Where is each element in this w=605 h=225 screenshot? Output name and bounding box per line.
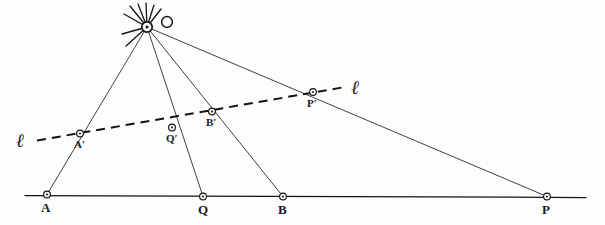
ray-OA <box>47 27 147 195</box>
point-Q-label: Q <box>198 203 208 216</box>
point-markers-group <box>44 17 551 200</box>
geometry-figure: AQBPA′Q′B′P′ℓℓ O <box>0 0 605 225</box>
point-A-dot <box>46 194 48 196</box>
ell-left-label: ℓ <box>16 131 24 150</box>
base-line-group <box>25 196 586 198</box>
point-B-label: B <box>278 203 287 216</box>
point-B-dot <box>282 196 284 198</box>
base-line <box>25 196 586 198</box>
point-A-label: A <box>41 201 50 214</box>
projection-rays-group <box>47 27 547 197</box>
point-Q-prime-dot <box>171 127 173 129</box>
ell-right-label: ℓ <box>351 78 359 97</box>
point-P-label: P <box>542 203 550 216</box>
point-B-prime-dot <box>211 111 213 113</box>
point-A-prime-label: A′ <box>74 139 85 150</box>
center-point-dot <box>146 26 149 29</box>
point-Q-dot <box>202 196 204 198</box>
point-A-prime-dot <box>79 133 81 135</box>
figure-canvas <box>0 0 605 225</box>
point-P-prime-label: P′ <box>307 98 317 109</box>
point-P-dot <box>546 196 548 198</box>
center-letter-o-icon <box>162 17 173 28</box>
point-Q-prime-label: Q′ <box>166 133 178 144</box>
point-B-prime-label: B′ <box>206 117 216 128</box>
ray-OQ <box>147 27 203 197</box>
point-P-prime-dot <box>312 91 314 93</box>
